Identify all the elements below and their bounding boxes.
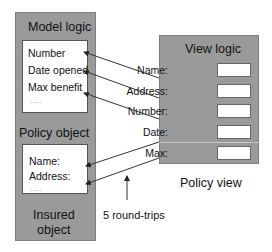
arrow-max — [84, 93, 159, 119]
arrow-number — [84, 52, 159, 78]
arrow-date — [84, 71, 159, 98]
connector-arrows — [0, 0, 272, 252]
